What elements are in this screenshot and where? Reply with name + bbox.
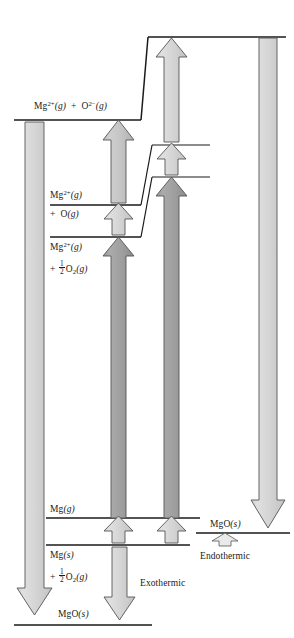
label-mg-gas: Mg(g) bbox=[50, 503, 75, 516]
connector-tier2 bbox=[141, 145, 152, 205]
arrow-col1-down-exothermic bbox=[104, 547, 135, 620]
diagram-canvas bbox=[0, 0, 294, 638]
label-plus-o-gas: + O(g) bbox=[50, 208, 79, 221]
label-exothermic: Exothermic bbox=[140, 578, 185, 588]
label-mg2-o2-gas: Mg2+(g) + O2−(g) bbox=[34, 100, 107, 113]
label-mg-solid-line1: Mg(s) bbox=[50, 549, 74, 562]
label-mg-solid-line2: + 12O2(g) bbox=[50, 568, 88, 584]
arrow-right-down-formation bbox=[251, 38, 285, 528]
arrow-left-down-overall bbox=[17, 122, 52, 615]
label-mgo-solid-right: MgO(s) bbox=[210, 518, 241, 531]
arrow-col2-up-atomisation bbox=[157, 516, 186, 543]
born-haber-cycle-diagram: Mg2+(g) + O2−(g) Mg2+(g) + O(g) Mg2+(g) … bbox=[0, 0, 294, 638]
arrow-col2-up-long bbox=[156, 177, 187, 518]
label-mgo-solid-bottom: MgO(s) bbox=[58, 608, 89, 621]
label-endothermic: Endothermic bbox=[200, 551, 250, 561]
arrow-col1-up-ionisation2 bbox=[103, 120, 134, 203]
arrow-col1-up-electron-affinity bbox=[104, 203, 133, 235]
arrow-col1-up-ionisation-long bbox=[103, 237, 134, 518]
arrow-endothermic-small bbox=[212, 533, 238, 546]
arrow-col1-up-atomisation bbox=[104, 516, 133, 543]
label-mg2-plus-line1: Mg2+(g) bbox=[50, 189, 82, 202]
label-mg2-halfo2-line2: + 12O2(g) bbox=[50, 260, 88, 276]
label-mg2-halfo2-line1: Mg2+(g) bbox=[50, 241, 82, 254]
energy-level-lines bbox=[14, 37, 290, 625]
arrow-col2-up-top bbox=[156, 38, 187, 142]
connector-to-top bbox=[141, 37, 148, 120]
arrow-col2-up-middle bbox=[157, 143, 186, 175]
connector-tier3 bbox=[141, 177, 152, 237]
